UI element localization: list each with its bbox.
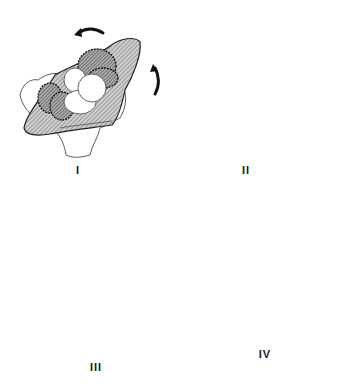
rotation-arrow-right xyxy=(155,68,158,94)
opening xyxy=(78,74,106,102)
figure-canvas xyxy=(0,0,343,390)
panel-label-ii: II xyxy=(242,164,250,176)
arrowhead-icon xyxy=(150,64,158,72)
arrowhead-icon xyxy=(74,28,82,37)
panel-label-iv: IV xyxy=(259,348,271,360)
panel-i xyxy=(20,28,158,157)
panel-label-i: I xyxy=(76,164,80,176)
panel-label-iii: III xyxy=(90,361,102,373)
rotation-arrow-top xyxy=(78,29,103,33)
